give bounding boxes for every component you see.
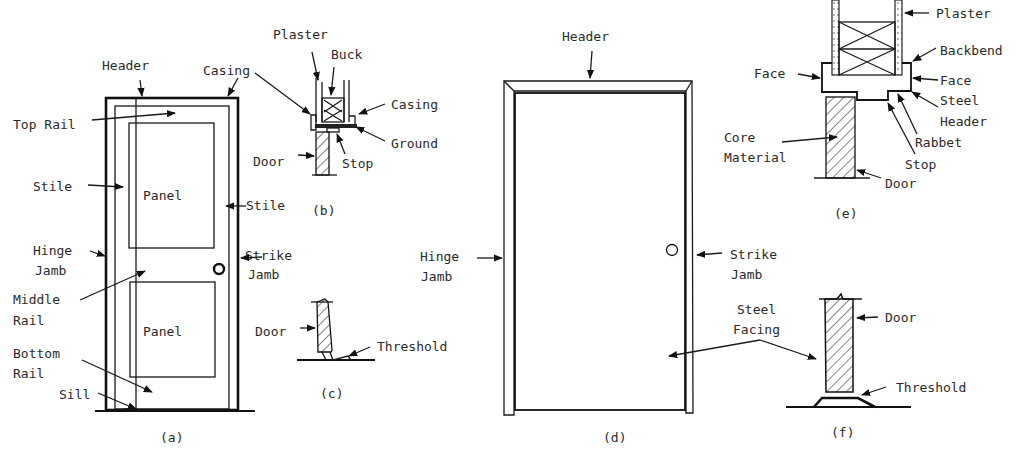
label-steel-header-2: Header — [940, 114, 987, 129]
steel-frame — [504, 81, 693, 415]
label-casing-b: Casing — [391, 97, 438, 112]
label-door-b: Door — [253, 154, 284, 169]
label-hinge-jamb-d-2: Jamb — [421, 269, 452, 284]
door-section-b — [316, 132, 329, 175]
door-knob-icon-d — [667, 245, 678, 256]
door-section-c — [317, 299, 332, 352]
threshold-f — [814, 398, 875, 407]
label-steel-header-1: Steel — [940, 93, 979, 108]
caption-f: (f) — [831, 425, 854, 440]
label-strike-jamb-d-2: Jamb — [731, 267, 762, 282]
panel-f-steel-sill-section: Door Threshold (f) — [786, 294, 966, 440]
caption-e: (e) — [834, 206, 857, 221]
label-stop-e: Stop — [905, 157, 936, 172]
caption-d: (d) — [603, 430, 626, 445]
caption-c: (c) — [320, 386, 343, 401]
label-steel-facing-2: Facing — [733, 322, 780, 337]
label-panel-bottom: Panel — [143, 324, 182, 339]
label-steel-facing-group: Steel Facing — [669, 302, 816, 359]
plaster-right — [895, 0, 902, 75]
label-steel-facing-1: Steel — [737, 302, 776, 317]
label-threshold-c: Threshold — [377, 339, 447, 354]
label-stile-right: Stile — [246, 198, 285, 213]
label-door-e: Door — [885, 176, 916, 191]
panel-a-wood-door: Header Casing Top Rail Stile Panel Stile… — [13, 58, 292, 445]
door-knob-icon — [214, 264, 224, 274]
upper-panel — [129, 123, 214, 248]
label-hinge-jamb-d-1: Hinge — [420, 249, 459, 264]
panel-d-steel-door: Header Hinge Jamb Strike Jamb (d) — [420, 29, 777, 445]
label-door-c: Door — [255, 324, 286, 339]
label-door-f: Door — [885, 310, 916, 325]
label-core-material-1: Core — [724, 130, 755, 145]
steel-door-leaf — [515, 93, 685, 410]
caption-a: (a) — [160, 430, 183, 445]
label-bottom-rail-1: Bottom — [13, 346, 60, 361]
label-strike-jamb-1: Strike — [245, 248, 292, 263]
label-top-rail: Top Rail — [13, 117, 76, 132]
label-panel-top: Panel — [143, 188, 182, 203]
label-core-material-2: Material — [724, 150, 787, 165]
label-hinge-jamb-2: Jamb — [35, 263, 66, 278]
label-buck: Buck — [331, 47, 362, 62]
label-face-left: Face — [754, 66, 785, 81]
door-frame-casing — [106, 98, 238, 410]
door-section-f — [825, 294, 853, 392]
label-header-d: Header — [562, 29, 609, 44]
label-strike-jamb-d-1: Strike — [730, 247, 777, 262]
label-stile-left: Stile — [33, 179, 72, 194]
label-strike-jamb-2: Jamb — [248, 267, 279, 282]
label-stop-b: Stop — [342, 156, 373, 171]
label-casing: Casing — [203, 63, 250, 78]
label-middle-rail-1: Middle — [13, 292, 60, 307]
label-header: Header — [102, 58, 149, 73]
label-rabbet: Rabbet — [915, 135, 962, 150]
panel-b-wood-head-section: Plaster Buck Casing Ground Door Stop (b) — [253, 27, 438, 218]
label-sill: Sill — [59, 387, 90, 402]
label-hinge-jamb-1: Hinge — [33, 243, 72, 258]
label-face-right: Face — [940, 73, 971, 88]
caption-b: (b) — [312, 203, 335, 218]
label-threshold-f: Threshold — [896, 380, 966, 395]
door-construction-diagram: Header Casing Top Rail Stile Panel Stile… — [0, 0, 1027, 453]
label-plaster-b: Plaster — [273, 27, 328, 42]
label-plaster-e: Plaster — [936, 6, 991, 21]
panel-c-wood-sill-section: Door Threshold (c) — [255, 299, 447, 401]
label-backbend: Backbend — [940, 43, 1003, 58]
label-bottom-rail-2: Rail — [13, 366, 44, 381]
label-middle-rail-2: Rail — [13, 313, 44, 328]
label-ground: Ground — [391, 136, 438, 151]
panel-e-steel-head-section: Plaster Backbend Face Face Steel Header … — [724, 0, 1003, 221]
plaster-left — [832, 0, 839, 75]
door-leaf — [115, 106, 229, 409]
